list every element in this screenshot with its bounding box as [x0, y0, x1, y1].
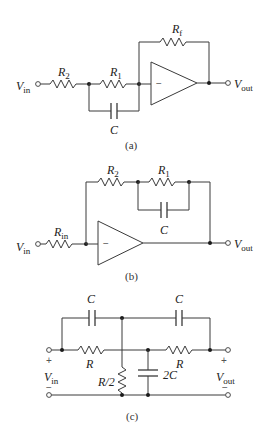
c-left-label: C	[87, 292, 96, 306]
vout-label-a: Vout	[234, 77, 253, 93]
vout-plus-sign: +	[221, 355, 227, 366]
vout-terminal-a	[226, 81, 231, 86]
vout-terminal-b	[226, 241, 231, 246]
c-right-label: C	[175, 292, 184, 306]
rin-label-b: Rin	[53, 225, 69, 241]
resistor-r-right	[166, 346, 226, 354]
2c-label: 2C	[163, 368, 178, 382]
circuit-a: Vin R2 R1 C Rf − Vout (a)	[16, 22, 253, 152]
inverting-input-sign-b: −	[103, 238, 109, 249]
vin-terminal-a	[36, 82, 41, 87]
rf-label-a: Rf	[171, 22, 182, 38]
r1-label-b: R1	[157, 163, 170, 179]
r2-label-b: R2	[106, 163, 119, 179]
circuit-figure: Vin R2 R1 C Rf − Vout (a) Vin	[0, 0, 265, 443]
caption-a: (a)	[125, 139, 138, 152]
vin-terminal-b	[36, 242, 41, 247]
resistor-r1-b	[149, 178, 189, 186]
vin-label-a: Vin	[16, 79, 31, 95]
r1-label-a: R1	[109, 65, 122, 81]
c-label-a: C	[110, 123, 119, 137]
inverting-input-sign-a: −	[156, 78, 162, 89]
vin-minus-sign: −	[46, 382, 52, 393]
vin-minus-terminal-c	[47, 393, 52, 398]
r2-label-a: R2	[57, 65, 70, 81]
vout-minus-sign: −	[222, 382, 228, 393]
caption-b: (b)	[125, 270, 138, 283]
caption-c: (c)	[126, 410, 139, 423]
r-left-label: R	[85, 357, 94, 371]
vout-minus-terminal-c	[226, 393, 231, 398]
vout-plus-terminal-c	[226, 348, 231, 353]
resistor-r-half	[118, 367, 126, 395]
vin-plus-sign: +	[46, 355, 52, 366]
resistor-r2-b	[98, 178, 138, 186]
vin-label-b: Vin	[16, 240, 31, 256]
resistor-r2-a	[50, 80, 88, 88]
circuit-b: Vin Rin R2 R1 C − Vout (b)	[16, 163, 253, 283]
circuit-c: C C R R R/2 2C + Vin − +	[44, 292, 235, 423]
vout-label-b: Vout	[234, 237, 253, 253]
r-half-label: R/2	[97, 375, 115, 389]
resistor-rin-b	[46, 240, 86, 248]
vin-plus-terminal-c	[47, 348, 52, 353]
c-label-b: C	[160, 223, 169, 237]
resistor-r1-a	[100, 80, 139, 88]
